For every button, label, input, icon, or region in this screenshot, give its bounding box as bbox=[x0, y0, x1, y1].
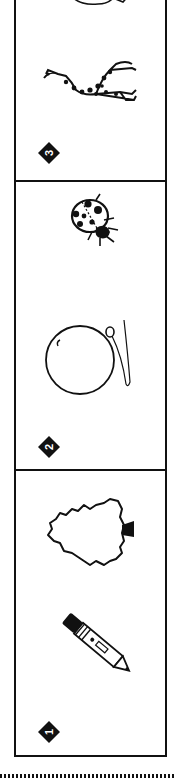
balloon-icon bbox=[42, 316, 142, 396]
ladybug-icon bbox=[66, 192, 126, 250]
partial-animal-icon bbox=[68, 0, 138, 10]
card-number: 3 bbox=[38, 142, 60, 164]
tree-icon bbox=[34, 491, 154, 571]
card-3: 3 bbox=[16, 0, 165, 180]
card-1: 1 bbox=[16, 471, 165, 757]
card-number-badge: 3 bbox=[38, 142, 60, 164]
card-number: 2 bbox=[38, 436, 60, 458]
card-2: 2 bbox=[16, 182, 165, 469]
card-number-badge: 2 bbox=[38, 436, 60, 458]
giraffe-icon bbox=[36, 56, 152, 114]
cut-line bbox=[0, 774, 174, 778]
pencil-icon bbox=[52, 601, 142, 689]
card-number: 1 bbox=[38, 721, 60, 743]
card-number-badge: 1 bbox=[38, 721, 60, 743]
